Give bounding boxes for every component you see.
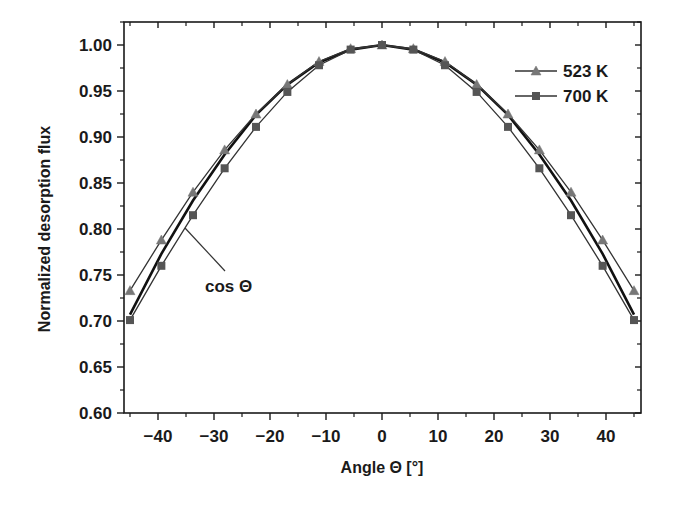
cos-annotation: cos Θ [185, 228, 252, 296]
triangle-marker [598, 235, 608, 244]
legend-item: 523 K [515, 62, 609, 81]
y-tick-label: 0.95 [79, 82, 112, 101]
x-tick-label: −10 [312, 427, 341, 446]
chart: 0.600.650.700.750.800.850.900.951.00 −40… [0, 0, 676, 510]
y-tick-label: 0.90 [79, 128, 112, 147]
triangle-marker [125, 286, 135, 295]
y-tick-label: 0.65 [79, 358, 112, 377]
triangle-marker [629, 286, 639, 295]
square-marker [347, 46, 355, 54]
y-tick-label: 0.75 [79, 266, 112, 285]
square-marker [630, 316, 638, 324]
annotation-label: cos Θ [205, 277, 252, 296]
x-tick-label: 0 [377, 427, 386, 446]
square-marker [504, 123, 512, 131]
annotation-pointer [185, 228, 225, 271]
x-tick-label: 40 [597, 427, 616, 446]
square-marker [409, 46, 417, 54]
series-cos-θ [130, 45, 634, 315]
square-marker [126, 316, 134, 324]
square-marker [599, 262, 607, 270]
legend-label: 700 K [563, 87, 609, 106]
x-tick-label: −30 [200, 427, 229, 446]
legend: 523 K700 K [515, 62, 609, 106]
x-tick-label: 20 [485, 427, 504, 446]
square-marker [283, 88, 291, 96]
triangle-marker [156, 235, 166, 244]
square-marker [535, 164, 543, 172]
x-tick-label: 30 [541, 427, 560, 446]
legend-item: 700 K [515, 87, 609, 106]
x-tick-label: −20 [256, 427, 285, 446]
square-marker [473, 88, 481, 96]
y-axis-title: Normalized desorption flux [36, 126, 53, 332]
y-tick-label: 0.85 [79, 174, 112, 193]
series-700-k [126, 41, 638, 324]
x-axis: −40−30−20−10010203040 [130, 22, 634, 446]
square-marker [221, 164, 229, 172]
square-marker [252, 123, 260, 131]
y-axis: 0.600.650.700.750.800.850.900.951.00 [79, 22, 641, 423]
square-marker [189, 211, 197, 219]
series-523-k [125, 40, 639, 295]
y-tick-label: 0.60 [79, 404, 112, 423]
plot-series [125, 40, 639, 324]
square-marker [532, 92, 540, 100]
square-marker [441, 61, 449, 69]
square-marker [315, 61, 323, 69]
y-tick-label: 0.70 [79, 312, 112, 331]
y-tick-label: 0.80 [79, 220, 112, 239]
legend-label: 523 K [563, 62, 609, 81]
x-axis-title: Angle Θ [°] [341, 459, 424, 476]
square-marker [157, 262, 165, 270]
x-tick-label: 10 [429, 427, 448, 446]
y-tick-label: 1.00 [79, 36, 112, 55]
square-marker [567, 211, 575, 219]
x-tick-label: −40 [144, 427, 173, 446]
square-marker [378, 41, 386, 49]
